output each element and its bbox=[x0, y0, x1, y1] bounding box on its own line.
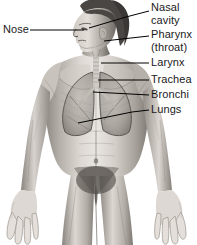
respiratory-system-diagram: Nose Nasal cavity Pharynx (throat) Laryn… bbox=[0, 0, 197, 245]
left-hand bbox=[7, 190, 38, 244]
label-nasal-cavity-line1: Nasal bbox=[151, 2, 180, 14]
label-nose: Nose bbox=[3, 24, 29, 36]
label-trachea: Trachea bbox=[151, 74, 192, 86]
label-pharynx-line2: (throat) bbox=[151, 42, 187, 54]
label-nasal-cavity-line2: cavity bbox=[151, 15, 180, 27]
right-hand bbox=[155, 190, 186, 244]
label-bronchi: Bronchi bbox=[151, 89, 189, 101]
label-lungs: Lungs bbox=[151, 104, 181, 116]
label-pharynx-line1: Pharynx bbox=[151, 29, 192, 41]
label-larynx: Larynx bbox=[151, 57, 185, 69]
head bbox=[73, 0, 130, 52]
